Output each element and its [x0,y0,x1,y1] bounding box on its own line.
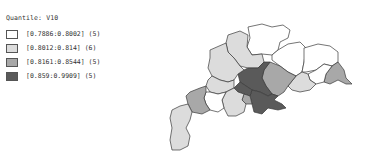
map-region [170,104,192,150]
choropleth-map [0,0,372,168]
